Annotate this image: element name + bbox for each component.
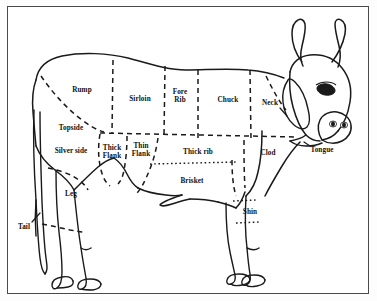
divider-thickflank-right	[118, 136, 127, 184]
cow-diagram-drawing	[0, 0, 377, 301]
divider-shin-top	[233, 200, 256, 201]
beef-cuts-diagram-page: Rump Sirloin ForeRib Chuck Neck Topside …	[0, 0, 377, 301]
cow-head	[290, 55, 352, 146]
divider-leg-top	[48, 168, 88, 190]
divider-thinflank-brisket	[137, 138, 158, 193]
divider-thickrib-brisket	[150, 162, 238, 164]
cow-ear	[283, 79, 310, 129]
divider-chuck-neck	[250, 70, 251, 140]
divider-brisket-front	[232, 160, 236, 196]
divider-rump-sirloin	[112, 60, 113, 133]
cow-eye	[316, 82, 336, 95]
divider-clod-foreleg	[244, 140, 245, 188]
leader-tail	[32, 213, 40, 222]
cow-body-outline	[33, 54, 284, 190]
cow-belly-and-udder	[74, 158, 236, 208]
cow-chest-and-shoulder	[236, 131, 300, 208]
cow-nostrils	[329, 121, 347, 128]
cut-divider-lines-dotted	[150, 162, 259, 223]
cow-fore-legs	[226, 196, 265, 287]
divider-shin-bottom	[236, 222, 259, 223]
divider-sirloin-forerib	[164, 66, 165, 136]
cut-divider-lines-dashed	[41, 60, 296, 232]
cow-horns	[292, 19, 345, 67]
divider-rump-topside	[41, 76, 104, 132]
